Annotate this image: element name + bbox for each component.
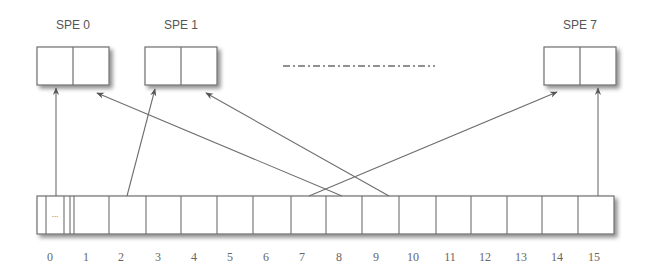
array-index-label: 3 bbox=[155, 250, 161, 264]
spe-box: SPE 1 bbox=[145, 18, 217, 85]
array-index-label: 0 bbox=[47, 250, 53, 264]
mapping-arrow bbox=[309, 92, 557, 196]
array-index-label: 1 bbox=[83, 250, 89, 264]
spe-label: SPE 0 bbox=[56, 18, 90, 32]
spe-distribution-diagram: SPE 0SPE 1SPE 7 ... 01234567891011121314… bbox=[0, 0, 654, 274]
mapping-arrow bbox=[97, 93, 342, 196]
array-index-label: 9 bbox=[373, 250, 379, 264]
spe-label: SPE 1 bbox=[164, 18, 198, 32]
array-index-label: 12 bbox=[479, 250, 491, 264]
array-index-label: 2 bbox=[118, 250, 124, 264]
array-index-label: 5 bbox=[227, 250, 233, 264]
data-array: ... bbox=[37, 196, 614, 234]
array-index-label: 8 bbox=[336, 250, 342, 264]
array-index-label: 6 bbox=[263, 250, 269, 264]
array-index-label: 11 bbox=[444, 250, 456, 264]
index-labels: 0123456789101112131415 bbox=[47, 250, 600, 264]
array-index-label: 15 bbox=[588, 250, 600, 264]
mapping-arrow bbox=[206, 93, 389, 196]
spe-box: SPE 7 bbox=[544, 18, 616, 85]
arrow-group bbox=[56, 88, 598, 196]
cell-ellipsis: ... bbox=[52, 210, 59, 219]
spe-group: SPE 0SPE 1SPE 7 bbox=[37, 18, 616, 85]
array-index-label: 4 bbox=[191, 250, 197, 264]
array-index-label: 13 bbox=[515, 250, 527, 264]
array-index-label: 14 bbox=[551, 250, 563, 264]
spe-label: SPE 7 bbox=[563, 18, 597, 32]
diagram-canvas: SPE 0SPE 1SPE 7 ... 01234567891011121314… bbox=[0, 0, 654, 274]
array-index-label: 7 bbox=[299, 250, 305, 264]
array-index-label: 10 bbox=[407, 250, 419, 264]
spe-box: SPE 0 bbox=[37, 18, 109, 85]
mapping-arrow bbox=[127, 89, 155, 196]
